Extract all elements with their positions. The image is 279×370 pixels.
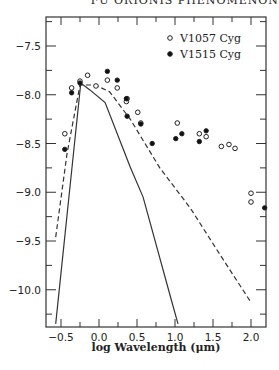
open-circle-marker	[204, 134, 209, 139]
filled-circle-marker	[262, 206, 266, 210]
filled-circle-icon	[168, 52, 173, 57]
axis-ticks: −0.50.00.51.01.52.0−7.5−8.0−8.5−9.0−9.5−…	[9, 17, 266, 343]
filled-circle-marker	[197, 139, 201, 143]
open-circle-marker	[63, 131, 68, 136]
y-tick-label: −9.5	[16, 235, 42, 247]
filled-circle-marker	[204, 129, 208, 133]
x-axis-label: log Wavelength (μm)	[92, 341, 221, 354]
open-circle-icon	[168, 36, 173, 41]
open-circle-marker	[94, 84, 99, 89]
legend-label: V1057 Cyg	[179, 32, 241, 45]
model-solid	[56, 83, 178, 324]
x-tick-label: −0.5	[48, 331, 74, 343]
filled-circle-marker	[105, 69, 109, 73]
y-tick-label: −8.5	[16, 138, 42, 150]
open-circle-marker	[197, 131, 202, 136]
filled-circle-marker	[150, 141, 154, 145]
y-tick-label: −7.5	[16, 40, 42, 52]
open-circle-marker	[135, 110, 140, 115]
filled-circle-marker	[125, 114, 129, 118]
filled-circle-marker	[174, 136, 178, 140]
open-circle-marker	[69, 86, 74, 91]
open-circle-marker	[115, 86, 120, 91]
filled-circle-marker	[124, 96, 128, 100]
model-dashed	[56, 85, 251, 302]
filled-circle-marker	[78, 81, 82, 85]
open-circle-marker	[249, 200, 254, 205]
open-circle-marker	[249, 191, 254, 196]
plot-frame	[46, 17, 266, 327]
open-circle-marker	[105, 78, 110, 83]
filled-circle-marker	[180, 132, 184, 136]
filled-circle-marker	[69, 91, 73, 95]
y-tick-label: −10.0	[9, 284, 41, 296]
sed-chart: −0.50.00.51.01.52.0−7.5−8.0−8.5−9.0−9.5−…	[0, 0, 279, 370]
data-points	[63, 69, 267, 210]
open-circle-marker	[233, 146, 238, 151]
filled-circle-marker	[139, 122, 143, 126]
open-circle-marker	[175, 121, 180, 126]
y-tick-label: −8.0	[16, 89, 42, 101]
x-tick-label: 2.0	[243, 331, 260, 343]
legend-label: V1515 Cyg	[179, 48, 241, 61]
open-circle-marker	[227, 142, 232, 147]
open-circle-marker	[85, 73, 90, 78]
model-curves	[56, 83, 251, 324]
filled-circle-marker	[63, 147, 67, 151]
open-circle-marker	[219, 144, 224, 149]
y-tick-label: −9.0	[16, 186, 42, 198]
filled-circle-marker	[115, 78, 119, 82]
legend: V1057 CygV1515 Cyg	[168, 32, 241, 61]
